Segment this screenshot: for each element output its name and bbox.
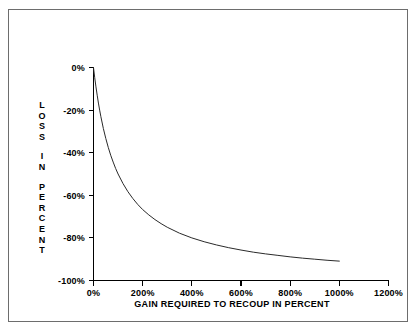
x-tick-label-200: 200% (131, 288, 155, 298)
chart-figure: 0% -20% -40% -60% -80% -100% 0% 200% 400… (0, 0, 418, 335)
y-axis-title-letter: E (39, 224, 45, 234)
y-axis-title-letter: C (39, 213, 46, 223)
y-tick-marks (89, 68, 94, 281)
y-tick-label-40: -40% (63, 148, 85, 158)
y-axis-title-letter: N (39, 162, 46, 172)
y-axis-title: LOSSINPERCENT (38, 100, 45, 255)
y-axis-title-letter: R (39, 203, 46, 213)
x-axis-title: GAIN REQUIRED TO RECOUP IN PERCENT (134, 299, 330, 309)
y-tick-label-20: -20% (63, 106, 85, 116)
y-axis-title-letter: N (39, 235, 46, 245)
y-axis-title-letter: O (38, 111, 45, 121)
x-tick-label-1000: 1000% (325, 288, 354, 298)
x-tick-label-1200: 1200% (374, 288, 403, 298)
y-tick-label-0: 0% (72, 63, 85, 73)
y-axis-title-letter: S (39, 121, 45, 131)
x-tick-label-800: 800% (278, 288, 302, 298)
y-axis-title-letter: I (41, 151, 44, 161)
y-axis-title-letter: T (39, 245, 45, 255)
y-tick-labels: 0% -20% -40% -60% -80% -100% (58, 63, 85, 286)
y-tick-label-60: -60% (63, 191, 85, 201)
x-tick-label-600: 600% (229, 288, 253, 298)
x-tick-labels: 0% 200% 400% 600% 800% 1000% 1200% (87, 288, 403, 298)
y-tick-label-100: -100% (58, 276, 85, 286)
chart-plot-area: 0% -20% -40% -60% -80% -100% 0% 200% 400… (0, 0, 418, 335)
x-tick-label-400: 400% (180, 288, 204, 298)
y-axis-title-letter: E (39, 192, 45, 202)
y-axis-title-letter: P (39, 182, 45, 192)
y-axis-title-letter: S (39, 132, 45, 142)
y-axis-title-letter: L (39, 100, 45, 110)
loss-recoup-curve (94, 68, 340, 262)
x-tick-marks (94, 281, 389, 286)
x-tick-label-0: 0% (87, 288, 100, 298)
y-tick-label-80: -80% (63, 233, 85, 243)
